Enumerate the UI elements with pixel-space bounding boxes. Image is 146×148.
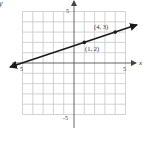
y-min-tick-label: -5	[63, 115, 68, 121]
graph-line-left	[10, 46, 74, 67]
x-axis-label: x	[138, 59, 143, 67]
x-max-tick-label: 5	[123, 66, 126, 72]
point-4-3	[113, 30, 117, 34]
y-axis-label: y	[0, 0, 3, 8]
coordinate-plane: y x 5 -5 5 5 (1, 2) (4, 3)	[0, 0, 146, 148]
point-1-2-label: (1, 2)	[85, 45, 99, 53]
point-1-2	[83, 41, 87, 45]
x-min-tick-label: 5	[20, 66, 23, 72]
y-max-tick-label: 5	[66, 8, 69, 14]
point-4-3-label: (4, 3)	[94, 23, 108, 31]
